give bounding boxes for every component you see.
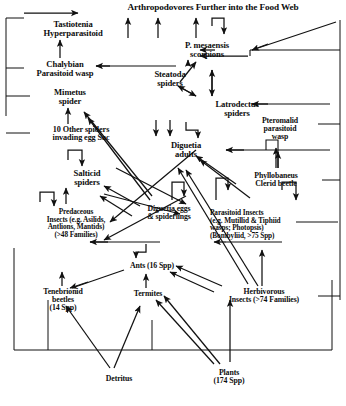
node-chalybian-parasitoid-wasp[interactable]: Chalybian Parasitoid wasp bbox=[6, 60, 124, 78]
node-p-mesaensis-scorpions[interactable]: P. mesaensis scorpions bbox=[162, 41, 252, 59]
node-diguetia-adults[interactable]: Diguetia adults bbox=[152, 141, 220, 159]
node-other-spiders-egg-sac[interactable]: 10 Other spiders invading egg Sac bbox=[22, 126, 140, 143]
node-steatoda-spiders[interactable]: Steatoda spiders bbox=[135, 70, 205, 88]
node-detritus[interactable]: Detritus bbox=[88, 375, 150, 383]
node-phyllobaneus-clerid-beetle[interactable]: Phyllobaneus Clerid beetle bbox=[229, 172, 323, 188]
node-termites[interactable]: Termites bbox=[117, 290, 179, 298]
node-tastiotenia-hyperparasitoid[interactable]: Tastiotenia Hyperparasitoid bbox=[18, 20, 128, 38]
node-predaceous-insects[interactable]: Predaceous Insects (e.g. Asilids, Antlio… bbox=[14, 208, 138, 238]
node-diguetia-eggs-spiderlings[interactable]: Diguetia eggs & spiderlings bbox=[122, 205, 216, 221]
node-pteromalid-parasitoid-wasp[interactable]: Pteromalid parasitoid wasp bbox=[240, 117, 320, 141]
node-mimetus-spider[interactable]: Mimetus spider bbox=[32, 88, 108, 106]
node-herbivorous-insects[interactable]: Herbivorous Insects (>74 Families) bbox=[208, 288, 320, 304]
node-salticid-spiders[interactable]: Salticid spiders bbox=[52, 169, 122, 187]
node-plants[interactable]: Plants (174 Spp) bbox=[198, 369, 260, 385]
food-web-diagram: Arthropodovores Further into the Food We… bbox=[0, 0, 346, 406]
node-ants[interactable]: Ants (16 Spp) bbox=[110, 262, 194, 270]
node-tenebrionid-beetles[interactable]: Tenebrionid beetles (14 Spp) bbox=[22, 288, 104, 312]
node-parasitoid-insects[interactable]: Parasitoid Insects (e.g. Mutillid & Tiph… bbox=[210, 209, 340, 239]
node-arthropodovores[interactable]: Arthropodovores Further into the Food We… bbox=[82, 3, 344, 12]
